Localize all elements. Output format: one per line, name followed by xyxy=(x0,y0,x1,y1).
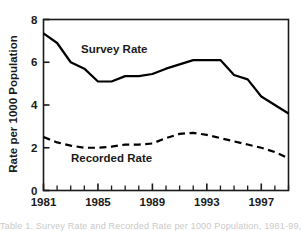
x-tick-label: 1997 xyxy=(248,196,274,208)
y-axis-ticks: 02468 xyxy=(31,14,49,197)
y-tick-label: 2 xyxy=(31,142,37,154)
figure-caption-fragment: Table 1. Survey Rate and Recorded Rate p… xyxy=(0,221,302,231)
x-tick-label: 1993 xyxy=(194,196,220,208)
y-tick-label: 6 xyxy=(31,56,37,68)
series-label-1: Recorded Rate xyxy=(71,152,152,164)
x-tick-label: 1989 xyxy=(140,196,166,208)
line-chart: 02468 19811985198919931997 Rate per 1000… xyxy=(0,0,302,231)
x-tick-label: 1985 xyxy=(85,196,111,208)
y-axis-title: Rate per 1000 Population xyxy=(7,35,19,172)
series-label-0: Survey Rate xyxy=(81,43,147,55)
y-tick-label: 8 xyxy=(31,14,38,26)
x-axis-ticks: 19811985198919931997 xyxy=(31,184,289,208)
x-tick-label: 1981 xyxy=(31,196,57,208)
chart-figure: 02468 19811985198919931997 Rate per 1000… xyxy=(0,0,302,231)
y-tick-label: 4 xyxy=(31,99,38,111)
